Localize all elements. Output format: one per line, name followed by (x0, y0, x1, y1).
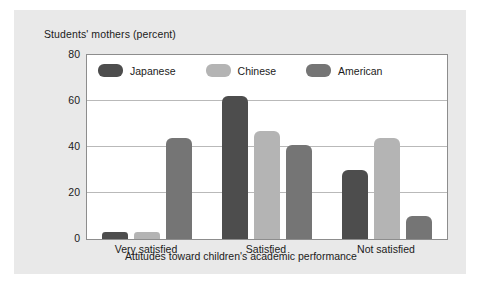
legend-item-japanese: Japanese (98, 64, 176, 77)
chart-panel: Students' mothers (percent) 80 60 40 20 … (14, 10, 466, 274)
y-axis-title: Students' mothers (percent) (44, 28, 176, 40)
bar-american-satisfied (286, 145, 312, 239)
legend-item-chinese: Chinese (206, 64, 277, 77)
x-axis-title: Attitudes toward children's academic per… (0, 250, 482, 262)
y-tick-60: 60 (44, 94, 80, 106)
legend-label-japanese: Japanese (130, 65, 176, 77)
bars-layer (87, 55, 447, 239)
y-tick-20: 20 (44, 186, 80, 198)
bar-american-not-satisfied (406, 216, 432, 239)
bar-japanese-not-satisfied (342, 170, 368, 239)
chart-figure: Students' mothers (percent) 80 60 40 20 … (0, 0, 482, 284)
bar-american-very-satisfied (166, 138, 192, 239)
y-tick-40: 40 (44, 140, 80, 152)
bar-chinese-not-satisfied (374, 138, 400, 239)
bar-japanese-satisfied (222, 96, 248, 239)
legend-label-chinese: Chinese (238, 65, 277, 77)
y-tick-80: 80 (44, 48, 80, 60)
legend-item-american: American (306, 64, 382, 77)
legend-swatch-chinese (206, 64, 231, 77)
legend-swatch-japanese (98, 64, 123, 77)
bar-chinese-very-satisfied (134, 232, 160, 239)
y-tick-0: 0 (44, 232, 80, 244)
legend-swatch-american (306, 64, 331, 77)
plot-area (86, 54, 448, 240)
bar-japanese-very-satisfied (102, 232, 128, 239)
bar-chinese-satisfied (254, 131, 280, 239)
chart-legend: JapaneseChineseAmerican (98, 64, 412, 77)
legend-label-american: American (338, 65, 382, 77)
